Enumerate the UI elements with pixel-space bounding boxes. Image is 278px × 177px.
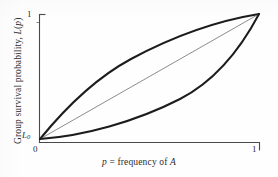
x-tick-label-one: 1 [252,145,257,154]
y-tick-l0-subscript: 0 [27,133,30,140]
x-axis-label: p = frequency of A [0,158,278,168]
figure-panel: Group survival probability, L(p) p = fre… [0,0,278,177]
y-axis-label-text: Group survival probability, [13,34,23,144]
x-tick-label-zero: 0 [33,145,38,154]
y-axis-label-func: L [13,29,23,34]
y-tick-label-l0: L0 [22,131,30,141]
curve-straight-diagonal [40,14,259,139]
y-tick-label-one: 1 [27,10,32,19]
x-axis-label-allele: A [170,157,176,167]
plot-canvas [0,0,278,177]
x-axis-label-text: = frequency of [107,157,170,167]
y-axis-label-arg: p [13,21,23,26]
